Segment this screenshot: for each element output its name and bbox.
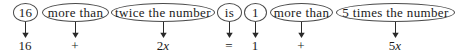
algebraic-term-t3: 2x (133, 39, 193, 52)
phrase-text: twice the number (115, 6, 211, 19)
down-arrow-icon-a1 (21, 22, 30, 38)
algebraic-term-t2: + (45, 39, 105, 52)
phrase-text: 1 (252, 6, 259, 19)
down-arrow-icon-a6 (297, 22, 306, 38)
phrase-text: 5 times the number (342, 6, 448, 19)
word-problem-translation-diagram: 16more thantwice the numberis1more than5… (0, 0, 456, 54)
phrase-oval-p1: 16 (13, 3, 38, 22)
algebraic-term-t7: 5x (365, 39, 425, 52)
down-arrow-icon-a7 (391, 22, 400, 38)
phrase-text: is (225, 6, 234, 19)
phrase-oval-p7: 5 times the number (336, 3, 455, 22)
phrase-oval-p6: more than (270, 3, 333, 22)
phrase-oval-p3: twice the number (111, 3, 215, 22)
down-arrow-icon-a5 (251, 22, 260, 38)
phrase-text: more than (274, 6, 330, 19)
down-arrow-icon-a2 (71, 22, 80, 38)
down-arrow-icon-a3 (159, 22, 168, 38)
phrase-text: more than (48, 6, 104, 19)
algebraic-term-t6: + (271, 39, 331, 52)
phrase-oval-p5: 1 (244, 3, 267, 22)
phrase-text: 16 (19, 6, 33, 19)
phrase-oval-p4: is (217, 3, 242, 22)
phrase-oval-p2: more than (42, 3, 109, 22)
down-arrow-icon-a4 (225, 22, 234, 38)
